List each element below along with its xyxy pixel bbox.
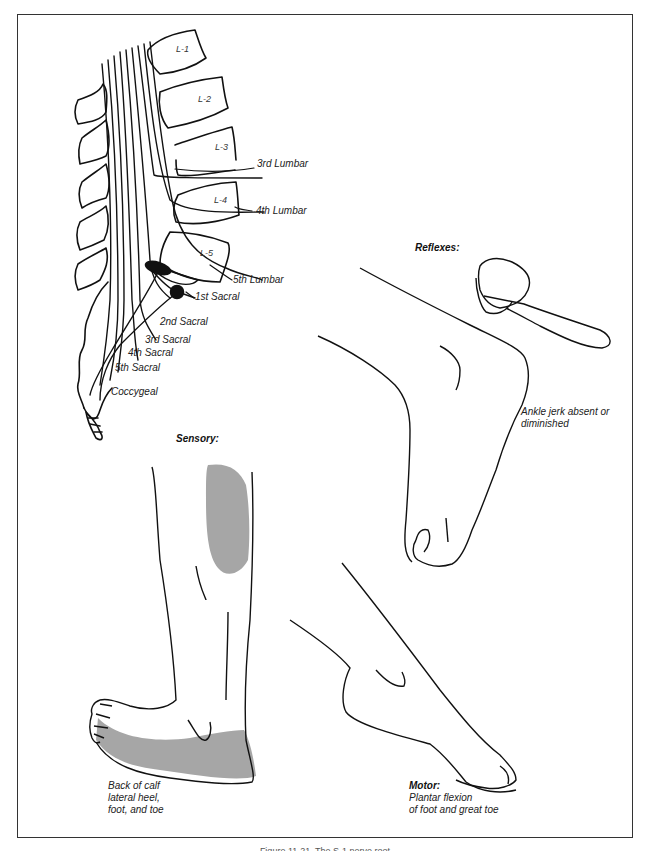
reflexes-note-line1: Ankle jerk absent or: [521, 406, 609, 418]
motor-note: Motor: Plantar flexion of foot and great…: [409, 780, 499, 816]
nerve-label-1st-sacral: 1st Sacral: [195, 291, 239, 303]
reflexes-note: Ankle jerk absent or diminished: [521, 406, 609, 430]
vertebra-label-l2: L-2: [198, 94, 211, 104]
reflexes-heading: Reflexes:: [415, 242, 459, 253]
compressed-nerve-s1: [171, 286, 184, 299]
motor-drawing: [290, 563, 516, 792]
figure-caption: Figure 11-21. The S-1 nerve root: [150, 846, 500, 851]
nerve-label-5th-lumbar: 5th Lumbar: [233, 274, 284, 286]
sensory-heading: Sensory:: [176, 433, 219, 444]
motor-note-line1: Plantar flexion: [409, 792, 499, 804]
sensory-drawing: [90, 464, 256, 783]
calf-shaded-area: [206, 464, 249, 573]
reflexes-note-line2: diminished: [521, 418, 609, 430]
sensory-note-line3: foot, and toe: [108, 804, 164, 816]
sensory-note-line1: Back of calf: [108, 780, 164, 792]
nerve-label-5th-sacral: 5th Sacral: [115, 362, 160, 374]
nerve-label-3rd-sacral: 3rd Sacral: [145, 334, 191, 346]
sensory-note-line2: lateral heel,: [108, 792, 164, 804]
sensory-note: Back of calf lateral heel, foot, and toe: [108, 780, 164, 816]
nerve-label-coccygeal: Coccygeal: [111, 386, 158, 398]
vertebra-label-l4: L-4: [214, 195, 227, 205]
motor-heading: Motor:: [409, 780, 499, 792]
vertebra-label-l5: L-5: [200, 248, 213, 258]
motor-note-line2: of foot and great toe: [409, 804, 499, 816]
vertebra-bodies: [148, 30, 239, 282]
vertebra-label-l1: L-1: [176, 44, 189, 54]
nerve-label-2nd-sacral: 2nd Sacral: [160, 316, 208, 328]
vertebra-label-l3: L-3: [215, 142, 228, 152]
heel-foot-shaded-area: [96, 718, 256, 778]
herniated-disc: [144, 259, 172, 277]
nerve-label-4th-sacral: 4th Sacral: [128, 347, 173, 359]
nerve-roots: [90, 42, 264, 400]
nerve-label-4th-lumbar: 4th Lumbar: [256, 205, 307, 217]
nerve-label-3rd-lumbar: 3rd Lumbar: [257, 158, 308, 170]
